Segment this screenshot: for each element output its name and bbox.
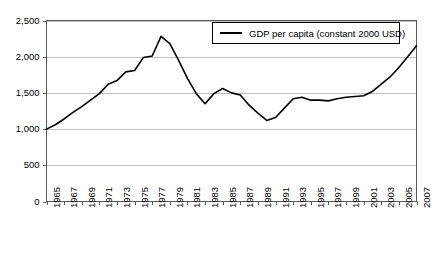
x-axis-tick-label: 1973 — [122, 186, 132, 207]
y-axis-tick-label: 1,500 — [0, 88, 40, 98]
series-line-gdp-per-capita — [47, 36, 417, 129]
x-axis-tick-label: 1993 — [298, 186, 308, 207]
x-axis-tick-label: 1981 — [192, 186, 202, 207]
x-axis-tick-label: 1969 — [87, 186, 97, 207]
legend-line-swatch-icon — [220, 32, 242, 34]
x-axis-tick-label: 1971 — [104, 186, 114, 207]
y-axis-ticks — [43, 22, 47, 203]
x-axis-tick-label: 1999 — [351, 186, 361, 207]
y-axis-tick-label: 2,000 — [0, 52, 40, 62]
x-axis-tick-label: 1989 — [263, 186, 273, 207]
x-axis-tick-label: 1983 — [210, 186, 220, 207]
x-axis-tick-label: 2003 — [386, 186, 396, 207]
y-axis-tick-label: 1,000 — [0, 124, 40, 134]
x-axis-tick-label: 2001 — [369, 186, 379, 207]
x-axis-tick-label: 1965 — [52, 186, 62, 207]
x-axis-tick-label: 1987 — [245, 186, 255, 207]
x-axis-tick-label: 2005 — [404, 186, 414, 207]
x-axis-tick-label: 1997 — [333, 186, 343, 207]
x-axis-tick-label: 1995 — [316, 186, 326, 207]
x-axis-tick-label: 2007 — [422, 186, 432, 207]
gdp-per-capita-line-chart: 2,5002,0001,5001,0005000 196519671969197… — [0, 0, 434, 262]
legend-entry-gdp-per-capita: GDP per capita (constant 2000 USD) — [213, 23, 399, 43]
x-axis-tick-label: 1985 — [228, 186, 238, 207]
x-axis-tick-label: 1979 — [175, 186, 185, 207]
plot-frame — [47, 21, 417, 202]
chart-legend: GDP per capita (constant 2000 USD) — [212, 22, 400, 44]
x-axis-tick-label: 1975 — [140, 186, 150, 207]
x-axis-tick-label: 1991 — [281, 186, 291, 207]
legend-entry-label: GDP per capita (constant 2000 USD) — [249, 28, 405, 39]
y-axis-tick-label: 500 — [0, 160, 40, 170]
y-axis-tick-label: 2,500 — [0, 16, 40, 26]
y-axis-tick-label: 0 — [0, 197, 40, 207]
x-axis-tick-label: 1977 — [157, 186, 167, 207]
x-axis-tick-label: 1967 — [69, 186, 79, 207]
